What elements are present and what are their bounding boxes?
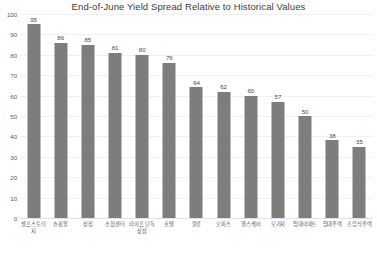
y-axis-tick-label: 90: [10, 31, 17, 38]
y-axis-tick-label: 50: [10, 113, 17, 120]
bar-value-label: 80: [139, 46, 146, 53]
bars-layer: 95868581807664626057503835: [20, 14, 373, 218]
bar-group[interactable]: 95: [20, 14, 47, 218]
x-axis-tick-label: 라이프 단독상점: [129, 221, 156, 235]
bar-group[interactable]: 38: [319, 14, 346, 218]
bar[interactable]: [326, 140, 339, 218]
bar-value-label: 62: [220, 83, 227, 90]
x-axis-tick-label: 오피스: [210, 221, 237, 228]
x-axis-tick-label: 임대아파트: [292, 221, 319, 228]
bar-group[interactable]: 35: [346, 14, 373, 218]
bar[interactable]: [271, 102, 284, 218]
x-axis-tick-label: 호텔: [156, 221, 183, 228]
bar-group[interactable]: 76: [156, 14, 183, 218]
bar-value-label: 50: [302, 108, 309, 115]
x-axis-labels: 셀프스토리지쇼핑몰상점소형센터라이프 단독상점호텔물류오피스헬스케어모기지임대아…: [20, 221, 373, 251]
y-axis-tick-label: 0: [14, 215, 17, 222]
bar-group[interactable]: 86: [47, 14, 74, 218]
y-axis-tick-label: 40: [10, 133, 17, 140]
x-axis-tick-label: 임대주택: [319, 221, 346, 228]
bar[interactable]: [54, 43, 67, 218]
x-axis-tick-label: 상점: [74, 221, 101, 228]
x-axis-tick-label: 셀프스토리지: [20, 221, 47, 235]
bar-value-label: 38: [329, 132, 336, 139]
bar-chart: End-of-June Yield Spread Relative to His…: [0, 0, 377, 255]
bar-value-label: 64: [193, 79, 200, 86]
bar-value-label: 35: [356, 138, 363, 145]
bar-group[interactable]: 81: [101, 14, 128, 218]
bar[interactable]: [299, 116, 312, 218]
gridline: [20, 218, 373, 219]
y-axis: 1009080706050403020100: [0, 14, 20, 218]
y-axis-tick-label: 80: [10, 51, 17, 58]
bar-value-label: 60: [247, 87, 254, 94]
bar[interactable]: [217, 92, 230, 218]
y-axis-tick-label: 100: [7, 11, 17, 18]
bar[interactable]: [163, 63, 176, 218]
bar-group[interactable]: 50: [292, 14, 319, 218]
bar[interactable]: [27, 24, 40, 218]
bar-group[interactable]: 64: [183, 14, 210, 218]
y-axis-tick-label: 70: [10, 72, 17, 79]
y-axis-tick-label: 60: [10, 92, 17, 99]
bar-value-label: 76: [166, 54, 173, 61]
y-axis-tick-label: 30: [10, 153, 17, 160]
x-axis-tick-label: 헬스케어: [237, 221, 264, 228]
x-axis-tick-label: 물류: [183, 221, 210, 228]
bar-group[interactable]: 80: [129, 14, 156, 218]
bar[interactable]: [190, 87, 203, 218]
bar-value-label: 95: [30, 16, 37, 23]
y-axis-tick-label: 20: [10, 174, 17, 181]
bar-group[interactable]: 85: [74, 14, 101, 218]
bar-value-label: 57: [275, 93, 282, 100]
bar[interactable]: [244, 96, 257, 218]
bar-value-label: 85: [85, 36, 92, 43]
bar-value-label: 86: [57, 34, 64, 41]
x-axis-tick-label: 모기지: [264, 221, 291, 228]
bar[interactable]: [81, 45, 94, 218]
chart-title: End-of-June Yield Spread Relative to His…: [0, 1, 377, 12]
x-axis-tick-label: 소형센터: [101, 221, 128, 228]
y-axis-tick-label: 10: [10, 194, 17, 201]
bar-value-label: 81: [112, 44, 119, 51]
bar-group[interactable]: 57: [264, 14, 291, 218]
x-axis-tick-label: 조립식주택: [346, 221, 373, 228]
bar[interactable]: [353, 147, 366, 218]
x-axis-tick-label: 쇼핑몰: [47, 221, 74, 228]
bar-group[interactable]: 62: [210, 14, 237, 218]
bar-group[interactable]: 60: [237, 14, 264, 218]
bar[interactable]: [136, 55, 149, 218]
bar[interactable]: [109, 53, 122, 218]
